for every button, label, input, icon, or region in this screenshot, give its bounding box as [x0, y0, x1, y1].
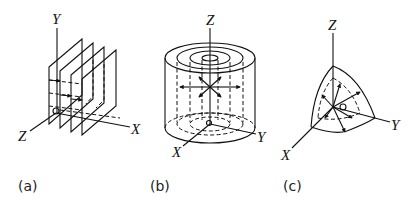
panel-a-planes — [30, 28, 130, 135]
axis-label-x-a: X — [130, 121, 141, 137]
figure-canvas: Y X Z (a) Z Y X (b) — [0, 0, 418, 206]
axis-label-x-c: X — [280, 147, 291, 163]
axis-label-y-a: Y — [52, 11, 62, 27]
axis-label-x-b: X — [171, 144, 182, 160]
panel-c-sphere-octant — [292, 33, 390, 148]
caption-b: (b) — [150, 178, 170, 194]
plane-4 — [82, 50, 116, 135]
axis-label-z-b: Z — [206, 12, 215, 28]
panel-b-cylinders — [165, 28, 256, 146]
caption-c: (c) — [283, 178, 302, 194]
axis-label-y-c: Y — [391, 117, 401, 133]
axis-label-z-a: Z — [18, 128, 27, 144]
caption-a: (a) — [18, 178, 38, 194]
y-axis-b — [210, 124, 256, 134]
axis-label-z-c: Z — [328, 17, 337, 33]
axis-label-y-b: Y — [257, 129, 267, 145]
